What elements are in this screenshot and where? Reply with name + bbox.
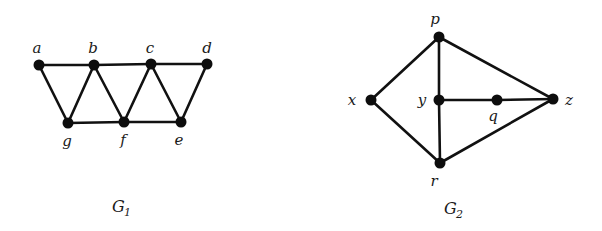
edge-c-e	[151, 64, 181, 122]
graph-caption-subscript: 1	[124, 206, 131, 219]
graph-g2: pxyqzrG2	[348, 10, 573, 221]
vertex-y	[434, 95, 445, 106]
vertex-a	[34, 60, 45, 71]
vertex-label-q: q	[488, 107, 498, 125]
vertex-d	[202, 59, 213, 70]
vertex-label-b: b	[88, 39, 98, 57]
vertex-r	[435, 158, 446, 169]
graph-diagram: abcdgfeG1 pxyqzrG2	[0, 0, 602, 231]
vertex-b	[89, 60, 100, 71]
vertex-label-x: x	[348, 91, 357, 109]
vertex-label-e: e	[175, 131, 184, 149]
vertex-q	[492, 95, 503, 106]
vertex-label-r: r	[430, 172, 438, 190]
vertex-f	[119, 117, 130, 128]
vertex-label-g: g	[62, 132, 72, 150]
vertex-label-f: f	[119, 131, 128, 149]
edge-f-c	[124, 64, 151, 122]
vertex-label-y: y	[417, 91, 427, 109]
vertex-p	[434, 32, 445, 43]
vertex-c	[146, 59, 157, 70]
vertex-label-d: d	[202, 39, 212, 57]
edge-p-x	[371, 37, 439, 100]
edge-a-g	[39, 65, 68, 123]
vertex-label-c: c	[146, 39, 155, 57]
edge-y-r	[439, 100, 440, 163]
edge-e-d	[181, 64, 207, 122]
vertex-e	[176, 117, 187, 128]
edge-g-b	[68, 65, 94, 123]
vertex-label-z: z	[564, 91, 573, 109]
vertex-x	[366, 95, 377, 106]
edge-p-z	[439, 37, 553, 99]
graph-caption-subscript: 2	[455, 208, 463, 221]
edge-g-f	[68, 122, 124, 123]
edge-q-z	[497, 99, 553, 100]
edge-b-f	[94, 65, 124, 122]
vertex-g	[63, 118, 74, 129]
edge-x-r	[371, 100, 440, 163]
vertex-label-p: p	[430, 10, 440, 28]
edge-b-c	[94, 64, 151, 65]
vertex-label-a: a	[33, 39, 42, 57]
graph-g1: abcdgfeG1	[33, 39, 213, 219]
vertex-z	[548, 94, 559, 105]
